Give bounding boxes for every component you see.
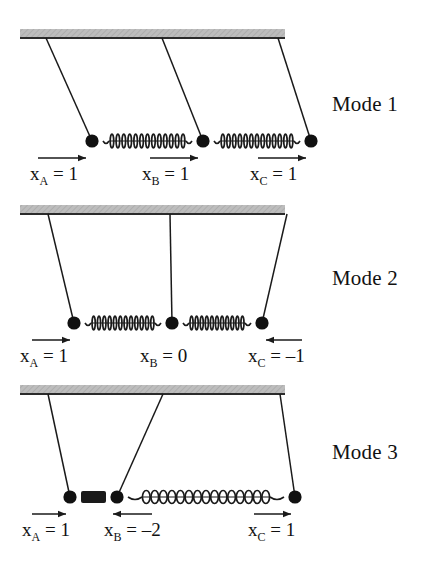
- subscript: B: [152, 174, 160, 188]
- spring-2-normal: [214, 134, 300, 148]
- spring-lead-right: [294, 141, 300, 144]
- value: = 1: [266, 519, 296, 540]
- pendulum-string-b: [117, 394, 163, 497]
- pendulum-bob-c: [304, 134, 317, 147]
- displacement-arrow-a: [32, 337, 70, 343]
- spring-lead-left: [103, 141, 109, 144]
- spring-lead-right: [245, 323, 251, 326]
- spring-lead-left: [214, 141, 220, 144]
- pendulum-bob-c: [255, 316, 268, 329]
- spring-1-normal: [103, 134, 192, 148]
- subscript: A: [32, 530, 41, 544]
- mode-3-label: Mode 3: [332, 440, 398, 465]
- displacement-arrow-c: [258, 155, 306, 161]
- value: = 1: [40, 519, 70, 540]
- arrow-head: [58, 511, 66, 517]
- pendulum-string-b: [162, 38, 203, 141]
- displacement-arrow-c: [254, 511, 291, 517]
- arrow-head: [298, 155, 306, 161]
- arrow-head: [113, 511, 121, 517]
- value: = 1: [160, 163, 190, 184]
- displacement-arrow-b: [113, 511, 152, 517]
- symbol: x: [104, 519, 114, 540]
- subscript: C: [258, 530, 266, 544]
- mode-2-equation-c: xC = –1: [248, 345, 305, 371]
- mode-1: [20, 29, 318, 161]
- figure-canvas: Mode 1xA = 1xB = 1xC = 1Mode 2xA = 1xB =…: [0, 0, 428, 564]
- value: = –1: [266, 345, 305, 366]
- value: = –2: [122, 519, 161, 540]
- symbol: x: [22, 519, 32, 540]
- mode-1-equation-b: xB = 1: [142, 163, 189, 189]
- pendulum-string-a: [48, 394, 70, 497]
- pendulum-bob-a: [67, 316, 80, 329]
- ceiling-bar: [20, 205, 285, 214]
- pendulum-bob-c: [288, 490, 301, 503]
- mode-2: [20, 205, 302, 343]
- spring-lead-right: [270, 497, 284, 500]
- mode-3-equation-a: xA = 1: [22, 519, 70, 545]
- mode-1-label: Mode 1: [332, 92, 398, 117]
- arrow-head: [266, 337, 274, 343]
- spring-2-stretched: [128, 491, 284, 504]
- symbol: x: [248, 519, 258, 540]
- value: = 1: [38, 345, 68, 366]
- pendulum-bob-b: [165, 316, 178, 329]
- subscript: A: [40, 174, 49, 188]
- value: = 1: [48, 163, 78, 184]
- symbol: x: [250, 163, 260, 184]
- mode-3-equation-b: xB = –2: [104, 519, 161, 545]
- value: = 0: [158, 345, 188, 366]
- pendulum-bob-b: [196, 134, 209, 147]
- pendulum-string-c: [280, 394, 295, 497]
- value: = 1: [268, 163, 298, 184]
- spring-lead-left: [85, 323, 91, 326]
- mode-3: [20, 385, 302, 517]
- pendulum-bob-b: [110, 490, 123, 503]
- pendulum-bob-a: [85, 134, 98, 147]
- ceiling-bar: [20, 29, 285, 38]
- pendulum-string-b: [170, 214, 172, 323]
- mode-2-equation-b: xB = 0: [140, 345, 187, 371]
- pendulum-string-a: [48, 214, 74, 323]
- spring-lead-left: [183, 323, 189, 326]
- arrow-head: [190, 155, 198, 161]
- pendulum-string-a: [46, 38, 92, 141]
- pendulum-bob-a: [63, 490, 76, 503]
- spring-1-normal: [85, 316, 161, 330]
- displacement-arrow-a: [32, 511, 66, 517]
- displacement-arrow-b: [150, 155, 198, 161]
- spring-lead-left: [128, 497, 142, 500]
- spring-2-normal: [183, 316, 251, 330]
- mode-2-label: Mode 2: [332, 266, 398, 291]
- arrow-head: [62, 337, 70, 343]
- symbol: x: [140, 345, 150, 366]
- pendulum-string-c: [262, 214, 287, 323]
- spring-lead-right: [155, 323, 161, 326]
- spring-lead-right: [186, 141, 192, 144]
- symbol: x: [30, 163, 40, 184]
- pendulum-string-c: [278, 38, 311, 141]
- arrow-head: [78, 155, 86, 161]
- subscript: A: [30, 356, 39, 370]
- compressed-spring-block: [81, 491, 106, 503]
- subscript: C: [258, 356, 266, 370]
- subscript: B: [114, 530, 122, 544]
- subscript: B: [150, 356, 158, 370]
- mode-1-equation-c: xC = 1: [250, 163, 297, 189]
- displacement-arrow-a: [38, 155, 86, 161]
- mode-1-equation-a: xA = 1: [30, 163, 78, 189]
- spring-1-compressed: [81, 491, 106, 503]
- symbol: x: [248, 345, 258, 366]
- arrow-head: [283, 511, 291, 517]
- ceiling-bar: [20, 385, 285, 394]
- displacement-arrow-c: [266, 337, 302, 343]
- subscript: C: [260, 174, 268, 188]
- mode-3-equation-c: xC = 1: [248, 519, 295, 545]
- symbol: x: [142, 163, 152, 184]
- symbol: x: [20, 345, 30, 366]
- mode-2-equation-a: xA = 1: [20, 345, 68, 371]
